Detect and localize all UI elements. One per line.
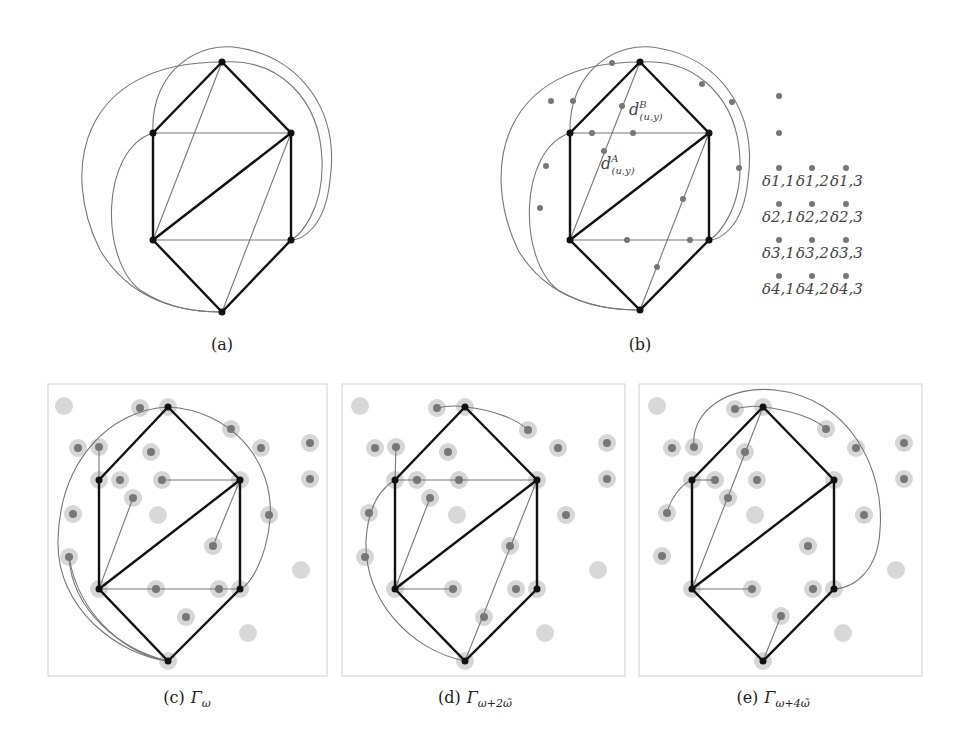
caption-b: (b) [629, 335, 652, 354]
delta-label: δ2,3 [830, 208, 863, 226]
delta-grid: δ1,1 δ1,2 δ1,3 δ2,1 δ2,2 δ2,3 δ3,1 δ3,2 … [762, 93, 863, 298]
sub-dot [570, 98, 576, 104]
grid-dot [843, 201, 849, 207]
vertex [150, 237, 157, 244]
vertex [219, 309, 226, 316]
sub-dot [609, 60, 615, 66]
sub-dot [680, 196, 686, 202]
curve-edge [153, 47, 332, 240]
curve-edge [465, 407, 528, 430]
vertex [150, 130, 157, 137]
panel-c [48, 384, 327, 676]
curve-edge [570, 47, 750, 240]
vertex [219, 59, 226, 66]
delta-label: δ1,1 [762, 172, 795, 190]
caption-e: (e)Γω+4ω̃ [736, 688, 809, 710]
delta-label: δ2,2 [796, 208, 829, 226]
curve-edge [111, 133, 222, 312]
grid-dot [843, 273, 849, 279]
curve-edge [366, 480, 465, 661]
grid-dot [776, 201, 782, 207]
delta-label: δ4,1 [762, 280, 795, 298]
sub-dot [619, 103, 625, 109]
grid-dot [843, 165, 849, 171]
panel-e [639, 384, 922, 676]
sub-dot [654, 264, 660, 270]
panel-a-graph [82, 47, 332, 316]
vertex [567, 237, 574, 244]
caption-d: (d)Γω+2ω̃ [438, 688, 512, 710]
sub-dot [736, 165, 742, 171]
sub-dot [589, 130, 595, 136]
delta-label: δ1,3 [830, 172, 863, 190]
sub-dot [624, 237, 630, 243]
vertex [706, 130, 713, 137]
vertex [288, 130, 295, 137]
grid-halos [648, 397, 913, 670]
panel-b-graph [501, 47, 749, 314]
delta-label: δ2,1 [762, 208, 795, 226]
curve-edge [529, 133, 640, 310]
sub-dot [729, 99, 735, 105]
edge [763, 616, 781, 661]
delta-label: δ4,2 [796, 280, 829, 298]
grid-dot [776, 237, 782, 243]
curve-edge [640, 62, 740, 240]
grid-dot [809, 165, 815, 171]
sub-dot [548, 98, 554, 104]
curve-edge [168, 407, 270, 589]
delta-label: δ1,2 [796, 172, 829, 190]
delta-label: δ4,3 [830, 280, 863, 298]
delta-label: δ3,1 [762, 244, 795, 262]
grid-dot [776, 130, 782, 136]
grid-halos [351, 397, 616, 670]
grid-dot [776, 93, 782, 99]
vertex [706, 237, 713, 244]
grid-halos [55, 397, 319, 670]
vertex [637, 307, 644, 314]
grid-dot [809, 201, 815, 207]
curve-edge [222, 62, 322, 240]
vertex [567, 130, 574, 137]
diagonal-edge [99, 480, 240, 589]
sub-dot [699, 81, 705, 87]
delta-label: δ3,3 [830, 244, 863, 262]
vertex [288, 237, 295, 244]
label-dA: dA(u,y) [601, 153, 635, 176]
grid-dot [776, 165, 782, 171]
sub-dot [543, 163, 549, 169]
delta-label: δ3,2 [796, 244, 829, 262]
caption-c: (c)Γω [163, 688, 211, 710]
label-dB: dB(u,y) [629, 99, 663, 122]
sub-dot [537, 205, 543, 211]
grid-dot [809, 237, 815, 243]
panel-d-frame [342, 384, 625, 676]
grid-dot [776, 273, 782, 279]
grid-dot [843, 237, 849, 243]
panel-d [342, 384, 625, 676]
sub-dot [630, 130, 636, 136]
figure-canvas: (a) [0, 0, 961, 748]
sub-dot [687, 237, 693, 243]
caption-a: (a) [211, 335, 233, 354]
grid-dot [809, 273, 815, 279]
curve-edge [694, 389, 881, 589]
vertex [637, 59, 644, 66]
